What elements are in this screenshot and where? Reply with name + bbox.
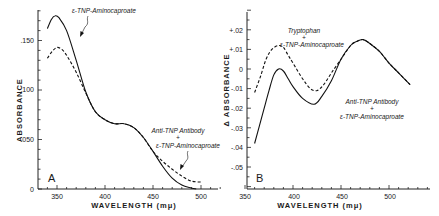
- panel-a-xtick-400: 400: [99, 193, 111, 200]
- panel-b-y-ticks: [247, 10, 251, 186]
- panel-a-ytick-150: .150: [20, 37, 34, 44]
- panel-a-solid-curve: [47, 16, 196, 189]
- panel-a-y-ticks: [38, 11, 42, 189]
- panel-a-letter: A: [48, 172, 56, 184]
- panel-b-label-dashed-line2: ε-TNP-Aminocaproate: [280, 41, 344, 49]
- panel-b-label-dashed-plus: +: [302, 34, 306, 41]
- panel-a-xtick-450: 450: [147, 193, 159, 200]
- panel-b-x-ticks: [245, 185, 427, 189]
- figure: 0 .050 .100 .150 350 400 450 500 WAVELEN…: [0, 0, 439, 216]
- panel-a-label-dashed-plus: +: [176, 134, 180, 141]
- panel-b-ytick-m01: -.01: [231, 85, 243, 92]
- panel-a: 0 .050 .100 .150 350 400 450 500 WAVELEN…: [15, 7, 220, 210]
- panel-b-ytick-p02: +.02: [229, 27, 243, 34]
- panel-b-xtick-350: 350: [239, 193, 251, 200]
- panel-b-ytick-m05: -.05: [231, 164, 243, 171]
- panel-b-solid-curve: [255, 40, 411, 144]
- panel-a-label-solid: ε-TNP-Aminocaproate: [72, 7, 136, 15]
- panel-b-ytick-m04: -.04: [231, 144, 243, 151]
- panel-b-ytick-m02: -.02: [231, 105, 243, 112]
- panel-b-ytick-m03: -.03: [231, 125, 243, 132]
- panel-b-label-solid-line2: ε-TNP-Aminocaproate: [340, 113, 404, 121]
- panel-b-label-solid-plus: +: [370, 105, 374, 112]
- panel-b-x-axis-title: WAVELENGTH (mμ): [277, 201, 363, 210]
- panel-b-ytick-p01: +.01: [229, 46, 243, 53]
- panel-b-xtick-500: 500: [384, 193, 396, 200]
- panel-a-xtick-350: 350: [51, 193, 63, 200]
- panel-a-xtick-500: 500: [195, 193, 207, 200]
- panel-b-xtick-450: 450: [336, 193, 348, 200]
- arrowhead-icon: [80, 31, 84, 37]
- panel-b: +.02 +.01 0 -.01 -.02 -.03 -.04 -.05 350…: [222, 10, 430, 210]
- panel-a-x-axis-title: WAVELENGTH (mμ): [91, 201, 177, 210]
- panel-a-ytick-0: 0: [30, 186, 34, 193]
- panel-a-label-dashed-pointer: [182, 151, 188, 167]
- panel-a-label-dashed-line2: ε-TNP-Aminocaproate: [156, 142, 220, 150]
- panel-a-dashed-curve: [47, 47, 201, 182]
- panel-a-y-axis-title: ABSORBANCE: [15, 78, 24, 142]
- panel-b-letter: B: [256, 172, 263, 184]
- panel-b-y-axis-title: Δ ABSORBANCE: [222, 53, 231, 126]
- panel-b-ytick-0: 0: [239, 66, 243, 73]
- panel-a-label-solid-pointer: [82, 16, 88, 33]
- panel-b-xtick-400: 400: [288, 193, 300, 200]
